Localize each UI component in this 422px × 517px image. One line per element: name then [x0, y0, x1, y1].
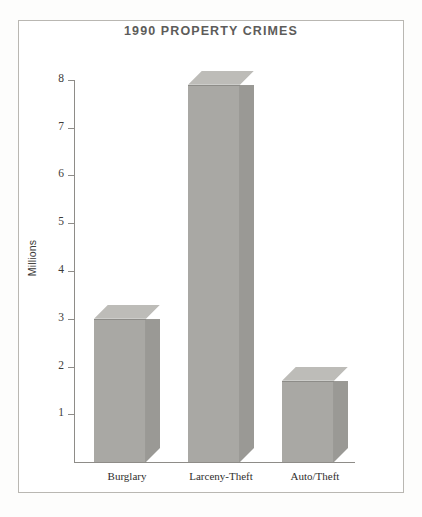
chart-title: 1990 PROPERTY CRIMES: [0, 24, 422, 38]
chart-figure: 1990 PROPERTY CRIMES 8 7 6 5 4 3 2 1 Mil…: [0, 0, 422, 517]
chart-frame: [18, 20, 404, 493]
